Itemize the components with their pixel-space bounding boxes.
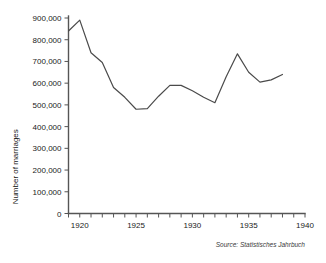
source-note: Source: Statistisches Jahrbuch xyxy=(216,241,306,248)
x-tick-label: 1930 xyxy=(183,221,201,230)
x-axis-tick-labels: 19201925193019351940 xyxy=(71,221,315,230)
x-tick-label: 1920 xyxy=(71,221,89,230)
axis-tick-marks xyxy=(65,18,306,218)
y-axis-title: Number of marriages xyxy=(11,129,20,204)
marriages-data-line xyxy=(69,20,283,109)
y-tick-label: 300,000 xyxy=(33,144,62,153)
y-tick-label: 500,000 xyxy=(33,101,62,110)
y-axis-tick-labels: 0100,000200,000300,000400,000500,000600,… xyxy=(33,14,62,219)
marriages-line-chart: 0100,000200,000300,000400,000500,000600,… xyxy=(0,0,326,263)
y-tick-label: 900,000 xyxy=(33,14,62,23)
y-tick-label: 700,000 xyxy=(33,57,62,66)
x-tick-label: 1940 xyxy=(296,221,314,230)
y-tick-label: 400,000 xyxy=(33,123,62,132)
x-tick-label: 1935 xyxy=(240,221,258,230)
x-tick-label: 1925 xyxy=(127,221,145,230)
chart-figure: 0100,000200,000300,000400,000500,000600,… xyxy=(0,0,326,263)
y-tick-label: 0 xyxy=(57,210,62,219)
y-tick-label: 600,000 xyxy=(33,79,62,88)
y-tick-label: 100,000 xyxy=(33,188,62,197)
y-tick-label: 200,000 xyxy=(33,166,62,175)
y-tick-label: 800,000 xyxy=(33,36,62,45)
